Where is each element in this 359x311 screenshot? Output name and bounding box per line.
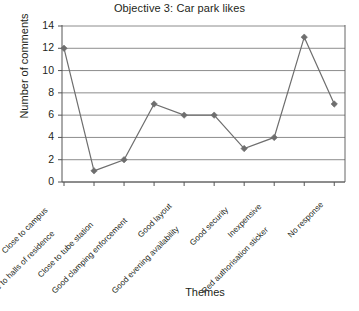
y-tick-label: 14 [28, 20, 54, 30]
data-line [64, 37, 334, 171]
y-tick-label: 4 [28, 131, 54, 141]
data-point-marker [301, 34, 307, 40]
data-point-marker [121, 157, 127, 163]
y-tick-label: 2 [28, 154, 54, 164]
data-point-marker [271, 134, 277, 140]
data-point-marker [331, 101, 337, 107]
chart-figure: Objective 3: Car park likes Number of co… [0, 0, 359, 311]
data-point-marker [151, 101, 157, 107]
y-tick-label: 12 [28, 42, 54, 52]
y-tick-label: 8 [28, 87, 54, 97]
y-tick-label: 10 [28, 65, 54, 75]
y-tick-label: 0 [28, 176, 54, 186]
y-tick-label: 6 [28, 109, 54, 119]
data-point-marker [91, 168, 97, 174]
data-point-marker [181, 112, 187, 118]
